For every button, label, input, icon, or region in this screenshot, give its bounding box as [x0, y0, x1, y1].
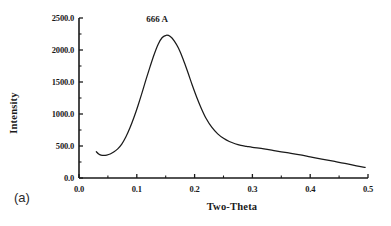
- chart-figure: 0.0500.01000.01500.02000.02500.0 0.00.10…: [0, 0, 391, 226]
- y-tick-label: 0.0: [34, 173, 74, 183]
- x-axis-title: Two-Theta: [207, 201, 258, 212]
- y-tick-label: 2000.0: [34, 45, 74, 55]
- axis-lines: [79, 18, 368, 178]
- x-tick-label: 0.2: [190, 184, 200, 194]
- y-tick-label: 2500.0: [34, 13, 74, 23]
- intensity-curve: [96, 35, 365, 167]
- y-tick-label: 500.0: [34, 141, 74, 151]
- x-tick-label: 0.0: [74, 184, 84, 194]
- panel-label: (a): [14, 190, 30, 205]
- peak-annotation-label: 666 A: [146, 14, 168, 24]
- y-tick-label: 1500.0: [34, 77, 74, 87]
- x-tick-label: 0.1: [132, 184, 142, 194]
- x-tick-label: 0.4: [305, 184, 315, 194]
- x-tick-label: 0.3: [247, 184, 257, 194]
- y-tick-label: 1000.0: [34, 109, 74, 119]
- y-axis-title: Intensity: [8, 92, 19, 133]
- x-tick-label: 0.5: [363, 184, 373, 194]
